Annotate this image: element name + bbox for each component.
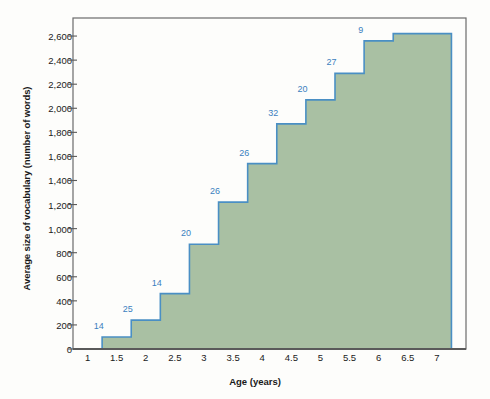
step-sample-size-label: 26 [239, 148, 249, 158]
step-sample-size-label: 9 [358, 25, 363, 35]
step-sample-size-label: 14 [152, 278, 162, 288]
step-sample-size-label: 20 [181, 228, 191, 238]
step-sample-size-label: 32 [268, 108, 278, 118]
chart-figure: Average size of vocabulary (number of wo… [0, 0, 490, 399]
step-sample-size-label: 27 [327, 57, 337, 67]
plot-area [0, 0, 490, 399]
step-sample-size-label: 26 [210, 186, 220, 196]
step-sample-size-label: 25 [123, 304, 133, 314]
step-area-fill [102, 34, 451, 349]
step-sample-size-label: 20 [297, 84, 307, 94]
step-sample-size-label: 14 [94, 321, 104, 331]
